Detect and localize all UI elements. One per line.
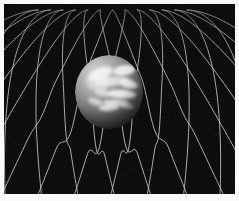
grid-line-u: [84, 10, 118, 194]
grid-line-u: [175, 10, 235, 194]
figure-root: Spacetime curvature around a massive bod…: [0, 0, 239, 201]
grid-line-v: [187, 10, 235, 194]
grid-line-u: [150, 10, 235, 194]
grid-line-v: [175, 10, 221, 194]
grid-line-u: [187, 10, 235, 194]
grid-line-v: [4, 10, 63, 194]
grid-line-v: [4, 10, 38, 194]
scene-frame: [4, 4, 235, 194]
grid-line-u: [5, 10, 51, 194]
frame-edge-left: [0, 0, 4, 201]
grid-line-u: [4, 10, 38, 194]
grid-line-v: [32, 10, 113, 194]
grid-line-v: [4, 10, 51, 194]
grid-line-group: [4, 10, 235, 194]
frame-edge-top: [0, 0, 239, 4]
grid-line-v: [144, 10, 162, 194]
grid-line-u: [113, 10, 194, 194]
frame-edge-right: [235, 0, 239, 201]
grid-line-v: [4, 10, 100, 194]
spacetime-grid: [4, 4, 235, 194]
frame-edge-bottom: [0, 194, 239, 201]
grid-line-v: [107, 10, 141, 194]
